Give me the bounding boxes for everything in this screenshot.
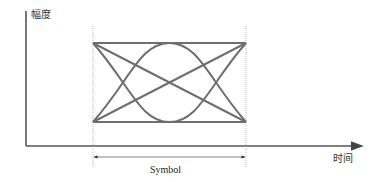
y-axis-label: 幅度 — [31, 6, 51, 21]
eye-diagram — [0, 0, 380, 182]
x-axis-label: 时间 — [333, 150, 353, 165]
symbol-label: Symbol — [150, 164, 181, 175]
